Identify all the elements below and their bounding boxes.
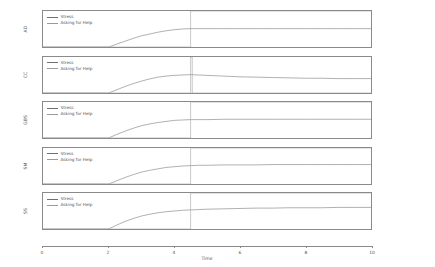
legend: StressAsking for Help (47, 196, 92, 208)
legend-label: Asking for Help (61, 66, 93, 72)
x-tick-label: 10 (369, 250, 375, 255)
legend-swatch-icon (47, 23, 58, 24)
legend: StressAsking for Help (47, 105, 92, 117)
multi-panel-line-chart: AD0.00.51.0StressAsking for HelpCC0.00.5… (0, 0, 435, 267)
x-tick-mark (108, 246, 109, 248)
legend-label: Asking for Help (61, 157, 93, 163)
x-tick-label: 0 (41, 250, 44, 255)
plot-panel-gbs: 0.00.51.0StressAsking for Help (42, 101, 372, 139)
x-tick-mark (306, 246, 307, 248)
plot-panel-ad: 0.00.51.0StressAsking for Help (42, 10, 372, 48)
x-tick-mark (240, 246, 241, 248)
x-tick-label: 2 (107, 250, 110, 255)
x-tick-mark (174, 246, 175, 248)
panel-y-axis-label-cc: CC (19, 71, 33, 79)
legend-item-asking-for-help: Asking for Help (47, 202, 92, 208)
plot-panel-cc: 0.00.51.0StressAsking for Help (42, 56, 372, 94)
panel-y-axis-label-ad: AD (19, 25, 33, 33)
legend: StressAsking for Help (47, 60, 92, 72)
x-tick-label: 8 (305, 250, 308, 255)
x-tick-label: 4 (173, 250, 176, 255)
legend-item-asking-for-help: Asking for Help (47, 66, 92, 72)
legend-label: Asking for Help (61, 202, 93, 208)
panel-y-axis-label-text: SS (22, 208, 30, 214)
x-tick-mark (42, 246, 43, 248)
legend-item-asking-for-help: Asking for Help (47, 111, 92, 117)
panel-y-axis-label-text: SM (22, 162, 30, 169)
legend-swatch-icon (47, 114, 58, 115)
legend-swatch-icon (47, 68, 58, 69)
legend-label: Asking for Help (61, 20, 93, 26)
series-line-stress (43, 119, 371, 138)
legend-swatch-icon (47, 199, 58, 200)
plot-panel-sm: 0.00.51.0StressAsking for Help (42, 147, 372, 185)
legend-swatch-icon (47, 159, 58, 160)
panel-y-axis-label-text: CC (22, 71, 30, 78)
panel-y-axis-label-gbs: GBS (19, 116, 33, 124)
legend: StressAsking for Help (47, 151, 92, 163)
panel-y-axis-label-sm: SM (19, 162, 33, 170)
panel-y-axis-label-text: GBS (22, 115, 30, 125)
legend-item-asking-for-help: Asking for Help (47, 157, 92, 163)
panel-y-axis-label-text: AD (22, 26, 30, 33)
panel-y-axis-label-ss: SS (19, 207, 33, 215)
series-line-stress (43, 164, 371, 183)
legend-swatch-icon (47, 108, 58, 109)
series-line-stress (43, 74, 371, 92)
x-tick-label: 6 (239, 250, 242, 255)
x-axis-line (42, 246, 372, 247)
legend-swatch-icon (47, 153, 58, 154)
x-tick-mark (372, 246, 373, 248)
x-axis-title: Time (42, 256, 372, 261)
legend-swatch-icon (47, 17, 58, 18)
legend-item-asking-for-help: Asking for Help (47, 20, 92, 26)
legend: StressAsking for Help (47, 14, 92, 26)
legend-swatch-icon (47, 205, 58, 206)
series-line-stress (43, 207, 371, 229)
plot-panel-ss: 0.00.51.0StressAsking for Help (42, 192, 372, 230)
legend-label: Asking for Help (61, 111, 93, 117)
series-line-stress (43, 29, 371, 47)
legend-swatch-icon (47, 62, 58, 63)
